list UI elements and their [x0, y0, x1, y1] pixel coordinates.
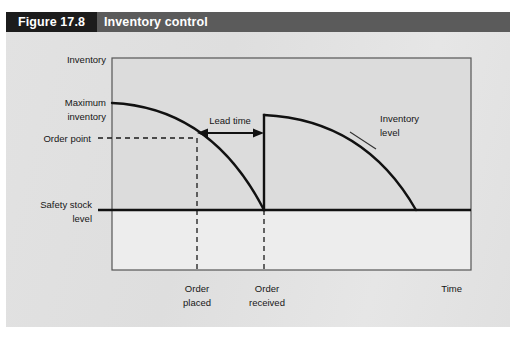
maximum-inventory-label-line2: inventory [67, 111, 106, 122]
order-placed-label-line1: Order [185, 283, 209, 294]
maximum-inventory-label-line1: Maximum [65, 97, 106, 108]
figure-title-label: Inventory control [104, 12, 208, 32]
lead-time-label: Lead time [209, 115, 251, 126]
inventory-control-chart: Inventory Maximum inventory Order point … [6, 32, 510, 327]
order-point-label: Order point [43, 133, 91, 144]
y-axis-label: Inventory [67, 54, 106, 65]
safety-stock-label-line1: Safety stock [40, 199, 92, 210]
x-axis-label: Time [441, 283, 462, 294]
inventory-level-label-line1: Inventory [380, 113, 419, 124]
plot-area-upper [112, 58, 471, 210]
figure-number-label: Figure 17.8 [6, 12, 97, 32]
order-received-label-line2: received [249, 297, 285, 308]
order-received-label-line1: Order [255, 283, 279, 294]
figure-root: Figure 17.8 Inventory control [0, 0, 523, 344]
plot-area-lower [112, 210, 471, 270]
order-placed-label-line2: placed [183, 297, 211, 308]
inventory-level-label-line2: level [380, 127, 400, 138]
safety-stock-label-line2: level [72, 213, 92, 224]
